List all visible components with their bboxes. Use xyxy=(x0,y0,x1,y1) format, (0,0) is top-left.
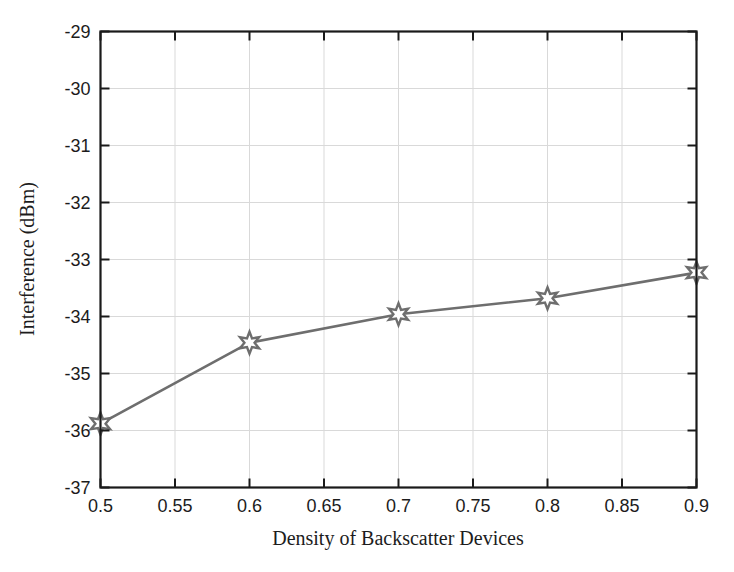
y-tick-label: -31 xyxy=(64,136,90,156)
y-axis-title: Interference (dBm) xyxy=(16,182,39,336)
y-tick-label: -33 xyxy=(64,250,90,270)
x-tick-label: 0.5 xyxy=(88,496,113,516)
chart-figure: 0.50.550.60.650.70.750.80.850.9 -37-36-3… xyxy=(0,0,734,572)
y-axis-tick-labels: -37-36-35-34-33-32-31-30-29 xyxy=(64,22,90,498)
x-axis-title: Density of Backscatter Devices xyxy=(272,527,524,550)
x-tick-label: 0.8 xyxy=(535,496,560,516)
y-tick-label: -30 xyxy=(64,79,90,99)
y-tick-label: -36 xyxy=(64,421,90,441)
x-tick-label: 0.9 xyxy=(684,496,709,516)
y-tick-label: -32 xyxy=(64,193,90,213)
y-tick-label: -35 xyxy=(64,364,90,384)
x-axis-tick-labels: 0.50.550.60.650.70.750.80.850.9 xyxy=(88,496,709,516)
x-tick-label: 0.55 xyxy=(157,496,192,516)
x-tick-label: 0.65 xyxy=(306,496,341,516)
y-tick-label: -29 xyxy=(64,22,90,42)
y-tick-label: -37 xyxy=(64,478,90,498)
x-tick-label: 0.7 xyxy=(386,496,411,516)
line-chart: 0.50.550.60.650.70.750.80.850.9 -37-36-3… xyxy=(0,0,734,572)
x-tick-label: 0.6 xyxy=(237,496,262,516)
y-tick-label: -34 xyxy=(64,307,90,327)
x-tick-label: 0.85 xyxy=(604,496,639,516)
x-tick-label: 0.75 xyxy=(455,496,490,516)
